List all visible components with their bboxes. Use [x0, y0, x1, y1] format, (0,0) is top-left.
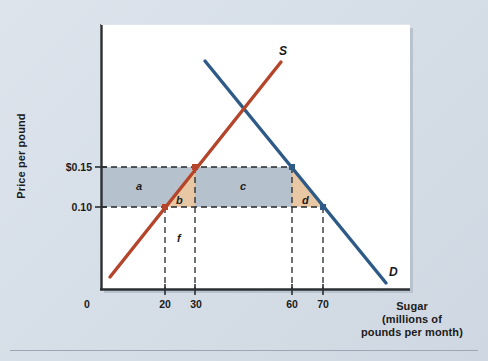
x-origin-label: 0 — [76, 298, 98, 310]
x-axis-title-line-3: pounds per month) — [338, 326, 486, 339]
y-axis-title: Price per pound — [15, 91, 27, 221]
x-axis-title-line-1: Sugar — [338, 300, 486, 313]
x-axis-title: Sugar (millions of pounds per month) — [338, 300, 486, 339]
marker-demand-60 — [289, 164, 295, 170]
y-tick-label-015: $0.15 — [36, 161, 92, 173]
demand-curve-label: D — [389, 265, 398, 279]
region-b-label: b — [176, 194, 183, 206]
x-tick-label-20: 20 — [154, 298, 176, 310]
region-d-label: d — [302, 194, 309, 206]
bottom-divider — [10, 350, 478, 351]
region-a-shape — [101, 167, 165, 207]
plot-shadow-right — [410, 28, 413, 293]
y-tick-label-010: 0.10 — [36, 201, 92, 213]
x-tick-label-60: 60 — [281, 298, 303, 310]
region-a-label: a — [136, 180, 142, 192]
x-tick-label-30: 30 — [185, 298, 207, 310]
figure-panel: Price per pound Sugar (millions of pound… — [0, 0, 488, 361]
marker-supply-20 — [162, 204, 168, 210]
region-f-label: f — [177, 232, 181, 244]
marker-demand-70 — [320, 204, 326, 210]
x-axis-title-line-2: (millions of — [338, 313, 486, 326]
marker-supply-30 — [192, 164, 198, 170]
x-tick-label-70: 70 — [312, 298, 334, 310]
region-c-label: c — [240, 180, 246, 192]
supply-curve-label: S — [279, 44, 287, 58]
plot-background — [101, 24, 410, 290]
